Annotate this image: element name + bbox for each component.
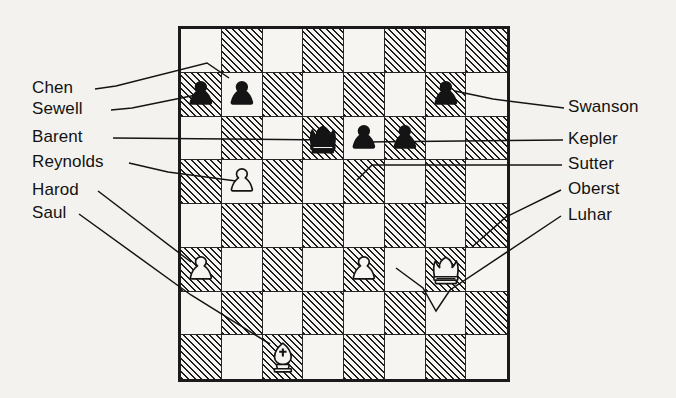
- board-square[interactable]: [385, 117, 426, 161]
- board-square[interactable]: [426, 160, 467, 204]
- white-pawn-icon[interactable]: [344, 248, 384, 291]
- board-square[interactable]: [426, 29, 467, 73]
- board-square[interactable]: [426, 73, 467, 117]
- board-square[interactable]: [263, 29, 304, 73]
- board-square[interactable]: [303, 248, 344, 292]
- board-square[interactable]: [263, 248, 304, 292]
- board-square[interactable]: [385, 73, 426, 117]
- board-square[interactable]: [222, 335, 263, 379]
- board-square[interactable]: [222, 160, 263, 204]
- board-square[interactable]: [426, 248, 467, 292]
- board-square[interactable]: [385, 204, 426, 248]
- board-square[interactable]: [263, 160, 304, 204]
- label-barent[interactable]: Barent: [32, 127, 83, 147]
- board-square[interactable]: [385, 335, 426, 379]
- board-square[interactable]: [466, 204, 507, 248]
- board-square[interactable]: [263, 335, 304, 379]
- board-square[interactable]: [181, 292, 222, 336]
- board-square[interactable]: [344, 248, 385, 292]
- black-pawn-icon[interactable]: [181, 73, 221, 116]
- board-square[interactable]: [466, 160, 507, 204]
- black-pawn-icon[interactable]: [426, 73, 466, 116]
- label-chen[interactable]: Chen: [32, 78, 73, 98]
- board-square[interactable]: [466, 29, 507, 73]
- board-square[interactable]: [181, 29, 222, 73]
- board-square[interactable]: [344, 335, 385, 379]
- board-square[interactable]: [385, 248, 426, 292]
- board-square[interactable]: [303, 73, 344, 117]
- board-square[interactable]: [181, 117, 222, 161]
- label-saul[interactable]: Saul: [32, 203, 66, 223]
- board-square[interactable]: [344, 73, 385, 117]
- board-square[interactable]: [426, 292, 467, 336]
- board-square[interactable]: [263, 117, 304, 161]
- board-square[interactable]: [385, 160, 426, 204]
- chess-board: [178, 26, 510, 382]
- board-square[interactable]: [426, 117, 467, 161]
- board-square[interactable]: [222, 117, 263, 161]
- board-square[interactable]: [385, 29, 426, 73]
- board-square[interactable]: [222, 29, 263, 73]
- board-square[interactable]: [181, 204, 222, 248]
- white-bishop-icon[interactable]: [263, 335, 303, 379]
- board-square[interactable]: [181, 73, 222, 117]
- board-square[interactable]: [181, 160, 222, 204]
- white-pawn-icon[interactable]: [222, 160, 262, 203]
- white-king-icon[interactable]: [426, 248, 466, 291]
- label-sutter[interactable]: Sutter: [568, 154, 614, 174]
- black-pawn-icon[interactable]: [222, 73, 262, 116]
- board-square[interactable]: [222, 73, 263, 117]
- board-square[interactable]: [466, 335, 507, 379]
- board-square[interactable]: [181, 335, 222, 379]
- black-pawn-icon[interactable]: [344, 117, 384, 160]
- board-square[interactable]: [222, 204, 263, 248]
- board-grid: [181, 29, 507, 379]
- black-king-icon[interactable]: [303, 117, 343, 160]
- board-square[interactable]: [263, 73, 304, 117]
- board-square[interactable]: [263, 292, 304, 336]
- white-pawn-icon[interactable]: [181, 248, 221, 291]
- label-harod[interactable]: Harod: [32, 180, 79, 200]
- board-square[interactable]: [222, 292, 263, 336]
- board-square[interactable]: [426, 204, 467, 248]
- board-square[interactable]: [263, 204, 304, 248]
- black-pawn-icon[interactable]: [385, 117, 425, 160]
- board-square[interactable]: [303, 160, 344, 204]
- board-square[interactable]: [466, 248, 507, 292]
- board-square[interactable]: [303, 292, 344, 336]
- board-square[interactable]: [222, 248, 263, 292]
- board-square[interactable]: [303, 117, 344, 161]
- label-reynolds[interactable]: Reynolds: [32, 152, 104, 172]
- board-square[interactable]: [303, 335, 344, 379]
- board-square[interactable]: [466, 117, 507, 161]
- label-luhar[interactable]: Luhar: [568, 205, 612, 225]
- board-square[interactable]: [303, 204, 344, 248]
- board-square[interactable]: [385, 292, 426, 336]
- board-square[interactable]: [344, 160, 385, 204]
- board-square[interactable]: [181, 248, 222, 292]
- board-square[interactable]: [303, 29, 344, 73]
- label-oberst[interactable]: Oberst: [568, 179, 620, 199]
- board-square[interactable]: [344, 29, 385, 73]
- board-square[interactable]: [466, 292, 507, 336]
- board-square[interactable]: [344, 292, 385, 336]
- label-sewell[interactable]: Sewell: [32, 99, 83, 119]
- board-square[interactable]: [344, 204, 385, 248]
- label-swanson[interactable]: Swanson: [568, 97, 639, 117]
- board-square[interactable]: [344, 117, 385, 161]
- board-square[interactable]: [466, 73, 507, 117]
- board-square[interactable]: [426, 335, 467, 379]
- chess-diagram-page: Chen Sewell Barent Reynolds Harod Saul S…: [0, 0, 676, 398]
- label-kepler[interactable]: Kepler: [568, 129, 618, 149]
